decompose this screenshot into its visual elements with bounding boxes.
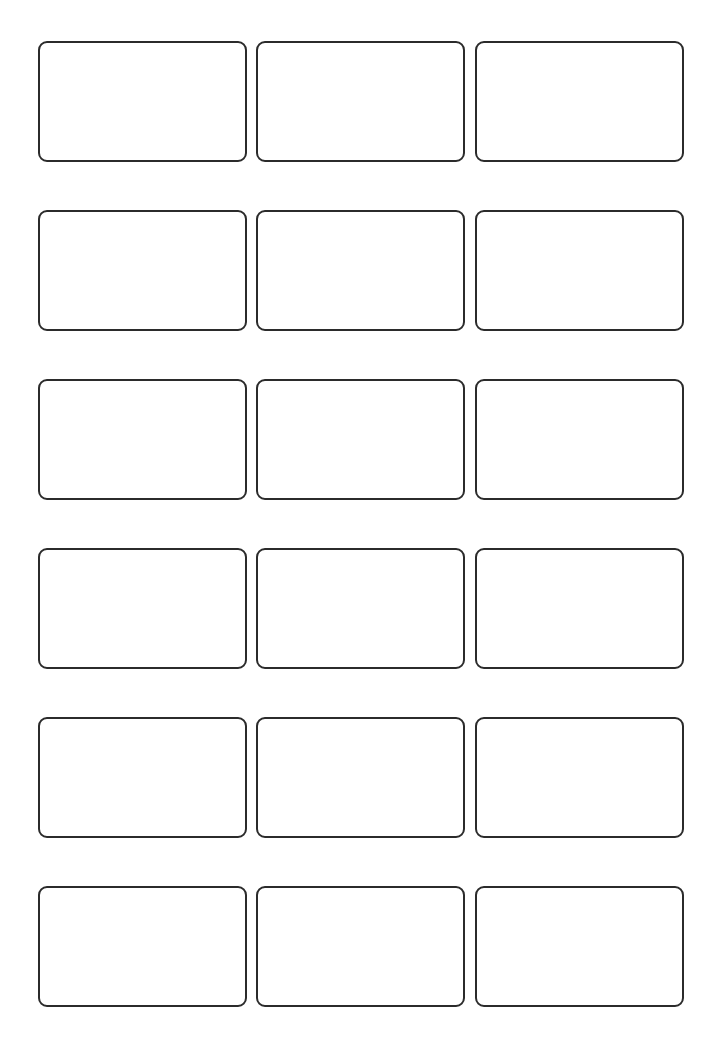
label-box-r5-c2 <box>256 717 465 838</box>
label-box-r1-c1 <box>38 41 247 162</box>
label-sheet <box>0 0 719 1055</box>
label-box-r2-c2 <box>256 210 465 331</box>
label-box-r4-c3 <box>475 548 684 669</box>
label-box-r2-c1 <box>38 210 247 331</box>
label-box-r2-c3 <box>475 210 684 331</box>
label-box-r5-c3 <box>475 717 684 838</box>
label-box-r4-c1 <box>38 548 247 669</box>
label-box-r3-c1 <box>38 379 247 500</box>
label-box-r1-c3 <box>475 41 684 162</box>
label-box-r6-c3 <box>475 886 684 1007</box>
label-box-r3-c2 <box>256 379 465 500</box>
label-box-r1-c2 <box>256 41 465 162</box>
label-box-r4-c2 <box>256 548 465 669</box>
label-box-r3-c3 <box>475 379 684 500</box>
label-box-r6-c1 <box>38 886 247 1007</box>
label-box-r6-c2 <box>256 886 465 1007</box>
label-box-r5-c1 <box>38 717 247 838</box>
